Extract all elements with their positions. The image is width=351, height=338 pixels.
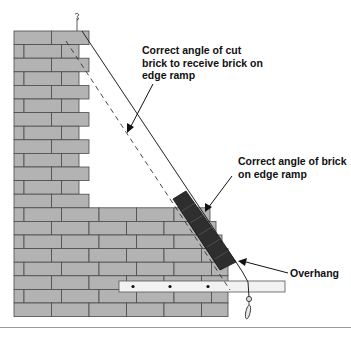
bottom-divider bbox=[0, 327, 351, 328]
label-cut-angle: Correct angle of cut brick to receive br… bbox=[142, 44, 263, 82]
timber-board bbox=[119, 281, 285, 292]
label-brick-angle: Correct angle of brick on edge ramp bbox=[238, 155, 347, 180]
label-overhang: Overhang bbox=[290, 267, 339, 280]
plumb-bob-icon bbox=[244, 296, 251, 319]
